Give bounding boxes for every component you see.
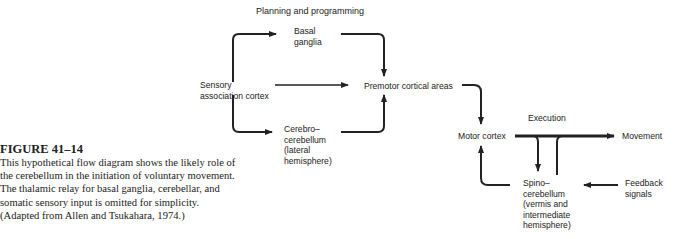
arrow-motor-to-spino — [533, 136, 538, 171]
arrow-premotor-to-motor — [462, 85, 481, 124]
line-spino-to-motor-output — [557, 136, 563, 175]
figure-number: FIGURE 41–14 — [0, 142, 236, 156]
node-sensory-association-cortex: Sensory association cortex — [200, 80, 269, 101]
caption-text: This hypothetical flow diagram shows the… — [0, 156, 236, 222]
label-planning: Planning and programming — [256, 6, 364, 17]
arrow-cerebro-to-premotor — [341, 95, 384, 132]
node-motor-cortex: Motor cortex — [458, 131, 506, 142]
node-basal-ganglia: Basal ganglia — [294, 26, 322, 47]
node-feedback-signals: Feedback signals — [625, 178, 663, 199]
node-cerebrocerebellum: Cerebro– cerebellum (lateral hemisphere) — [284, 124, 332, 166]
node-movement: Movement — [622, 131, 662, 142]
node-spinocerebellum: Spino– cerebellum (vermis and intermedia… — [523, 178, 571, 231]
arrow-sensory-to-basal — [233, 34, 276, 82]
label-execution: Execution — [528, 113, 566, 124]
arrow-spino-to-motor — [481, 146, 510, 185]
arrow-basal-to-premotor — [341, 34, 384, 76]
figure-caption: FIGURE 41–14 This hypothetical flow diag… — [0, 142, 236, 222]
node-premotor-cortical-areas: Premotor cortical areas — [364, 81, 453, 92]
